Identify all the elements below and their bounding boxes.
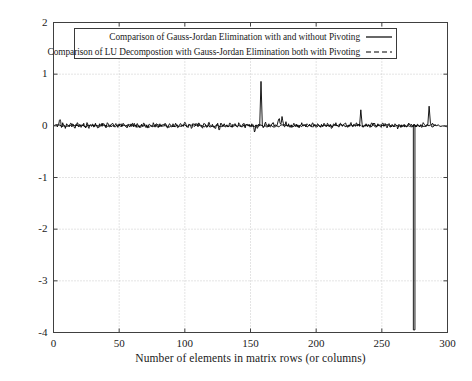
x-axis-label: Number of elements in matrix rows (or co… [53,352,448,364]
x-tick-label: 0 [34,337,74,349]
chart-legend: Comparison of Gauss-Jordan Elimination w… [74,28,397,59]
legend-label-0: Comparison of Gauss-Jordan Elimination w… [109,32,360,42]
x-tick-label: 150 [231,337,271,349]
y-tick-label: -4 [20,326,48,338]
y-tick-label: 0 [20,119,48,131]
x-tick-label: 200 [296,337,336,349]
y-tick-label: -3 [20,274,48,286]
chart-figure: Relative error Number of elements in mat… [0,0,472,381]
x-tick-label: 50 [99,337,139,349]
legend-item-1: Comparison of LU Decompostion with Gauss… [75,44,396,59]
legend-line-solid [365,32,393,42]
legend-item-0: Comparison of Gauss-Jordan Elimination w… [75,29,396,44]
y-tick-label: 1 [20,67,48,79]
x-tick-label: 300 [428,337,468,349]
x-tick-label: 100 [165,337,205,349]
x-tick-label: 250 [362,337,402,349]
legend-line-dashed [365,47,393,57]
legend-label-1: Comparison of LU Decompostion with Gauss… [48,47,360,57]
y-tick-label: -1 [20,171,48,183]
y-tick-label: -2 [20,222,48,234]
y-tick-label: 2 [20,16,48,28]
